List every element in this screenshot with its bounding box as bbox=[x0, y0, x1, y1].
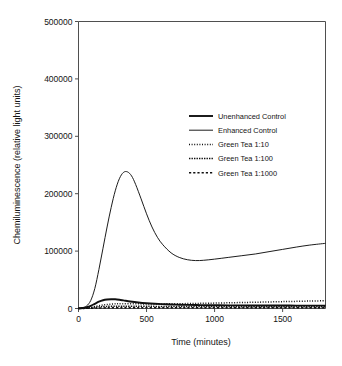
y-tick-label: 200000 bbox=[44, 189, 73, 199]
chart-background bbox=[0, 0, 342, 366]
x-tick-label: 1500 bbox=[273, 314, 292, 324]
chart-figure: 0100000200000300000400000500000 05001000… bbox=[0, 0, 342, 366]
y-tick-label: 500000 bbox=[44, 17, 73, 27]
y-tick-label: 0 bbox=[68, 304, 73, 314]
x-tick-label: 1000 bbox=[205, 314, 224, 324]
x-axis-title: Time (minutes) bbox=[171, 337, 231, 347]
y-axis-title: Chemiluminescence (relative light units) bbox=[12, 85, 22, 244]
legend-label-3: Green Tea 1:100 bbox=[218, 154, 273, 163]
chemiluminescence-line-chart: 0100000200000300000400000500000 05001000… bbox=[0, 0, 342, 366]
x-tick-label: 500 bbox=[139, 314, 153, 324]
legend-label-0: Unenhanced Control bbox=[218, 112, 286, 121]
y-tick-label: 400000 bbox=[44, 74, 73, 84]
legend-label-1: Enhanced Control bbox=[218, 126, 278, 135]
y-tick-label: 100000 bbox=[44, 246, 73, 256]
legend-label-4: Green Tea 1:1000 bbox=[218, 169, 277, 178]
legend-label-2: Green Tea 1:10 bbox=[218, 140, 269, 149]
y-tick-label: 300000 bbox=[44, 131, 73, 141]
x-tick-label: 0 bbox=[76, 314, 81, 324]
